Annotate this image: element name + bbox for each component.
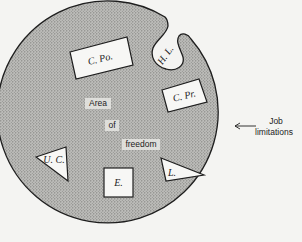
label-e: E. (113, 177, 123, 188)
area-label-line-1: Area (89, 98, 107, 108)
shape-e: E. (104, 168, 133, 197)
area-label-line-3: freedom (125, 139, 156, 149)
job-limitations-annotation: Job limitations (235, 116, 293, 137)
label-l: L. (167, 167, 176, 178)
job-limitations-line-1: Job (269, 116, 283, 126)
area-of-freedom-diagram: H. L. C. Po. C. Pr. U. C. E. L. Area of … (0, 0, 302, 242)
job-limitations-line-2: limitations (255, 127, 293, 137)
label-u-c: U. C. (43, 154, 64, 165)
area-label-line-2: of (108, 120, 116, 130)
